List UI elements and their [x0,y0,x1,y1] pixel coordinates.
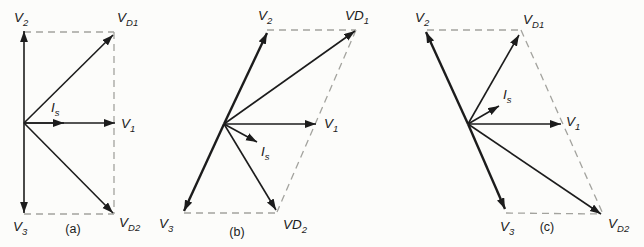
dashed-diagonal-c [521,30,603,214]
panel-a: V2 VD1 Is V1 V3 VD2 (a) [13,10,141,237]
label-v1-c: V1 [566,114,580,132]
label-v2-c: V2 [415,10,430,28]
caption-b: (b) [229,225,244,239]
label-is-b: Is [261,144,270,162]
label-v3-a: V3 [13,219,28,237]
label-vd2-b: VD2 [283,217,308,235]
label-vd1-a: VD1 [117,10,138,28]
label-v1-a: V1 [121,116,135,134]
vector-vd2-b [224,124,276,210]
label-v3-b: V3 [159,216,174,234]
vector-vd2-a [24,123,113,213]
dashed-diagonal-b [277,30,356,212]
label-vd2-c: VD2 [608,216,630,234]
phasor-diagram-figure: V2 VD1 Is V1 V3 VD2 (a) V2 VD1 V1 Is V3 … [0,0,644,247]
label-is-a: Is [51,100,60,118]
dashed-bottom-c [506,213,601,214]
label-vd1-c: VD1 [523,12,544,30]
vector-v2-b [224,33,267,124]
vector-vd1-a [24,35,113,123]
caption-c: (c) [540,220,555,234]
label-vd1-b: VD1 [345,8,369,26]
label-vd2-a: VD2 [119,215,141,233]
panel-c: V2 VD1 Is V1 V3 VD2 (c) [415,10,630,237]
label-v1-b: V1 [324,116,338,134]
vector-v2-c [426,32,468,124]
panel-b: V2 VD1 V1 Is V3 VD2 (b) [159,8,369,239]
phasor-diagram-svg: V2 VD1 Is V1 V3 VD2 (a) V2 VD1 V1 Is V3 … [0,0,644,247]
label-v3-c: V3 [500,219,515,237]
label-v2-a: V2 [14,10,29,28]
vector-vd1-c [468,35,519,124]
caption-a: (a) [65,222,80,236]
label-v2-b: V2 [258,8,273,26]
label-is-c: Is [503,87,512,105]
vector-v3-b [184,124,224,211]
